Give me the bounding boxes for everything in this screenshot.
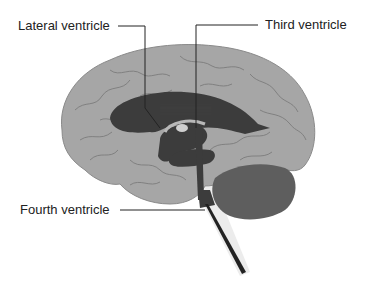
interventricular-foramen xyxy=(176,124,188,132)
cerebellum xyxy=(212,164,295,219)
brain-illustration: ▒▒▒▒▒▒▒▒ xyxy=(0,0,368,298)
brain-ventricles-diagram: ▒▒▒▒▒▒▒▒ Lateral ventricle Third ventric… xyxy=(0,0,368,298)
label-lateral-ventricle: Lateral ventricle xyxy=(18,19,110,32)
label-fourth-ventricle: Fourth ventricle xyxy=(20,203,110,216)
ghost-label: ▒▒▒▒▒▒▒▒ xyxy=(160,104,212,115)
label-third-ventricle: Third ventricle xyxy=(265,18,347,31)
